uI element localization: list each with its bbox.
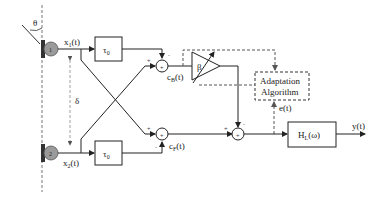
error-label: e(t)	[279, 103, 292, 113]
output-label: y(t)	[352, 121, 365, 131]
angle-label: θ	[33, 18, 37, 28]
delay-block-2	[95, 141, 122, 165]
svg-text:+: +	[147, 57, 151, 63]
svg-text:+: +	[160, 132, 164, 138]
svg-text:-: -	[168, 52, 170, 58]
filter-label: HL(ω)	[298, 130, 320, 141]
beamformer-diagram: θ 1 2 δ x1(t) x2(t) τ0 τ0 + - + cB(t) + …	[0, 0, 385, 198]
svg-text:+: +	[147, 125, 151, 131]
svg-text:-: -	[155, 144, 157, 150]
svg-text:+: +	[224, 125, 228, 131]
angle-arc	[30, 28, 42, 31]
adaptation-line2: Algorithm	[261, 87, 299, 97]
x2-label: x2(t)	[63, 158, 79, 169]
cf-label: cF(t)	[169, 141, 185, 152]
delay-block-1	[95, 37, 122, 61]
mic2-label: 2	[49, 151, 52, 157]
svg-text:-: -	[243, 121, 245, 127]
spacing-label: δ	[75, 96, 79, 106]
x1-label: x1(t)	[64, 37, 80, 48]
mic1-label: 1	[49, 47, 52, 53]
microphone-2: 2	[41, 144, 58, 162]
cb-label: cB(t)	[167, 72, 184, 83]
svg-text:+: +	[236, 132, 240, 138]
adaptation-line1: Adaptation	[260, 76, 300, 86]
svg-text:+: +	[160, 64, 164, 70]
microphone-1: 1	[41, 40, 58, 58]
